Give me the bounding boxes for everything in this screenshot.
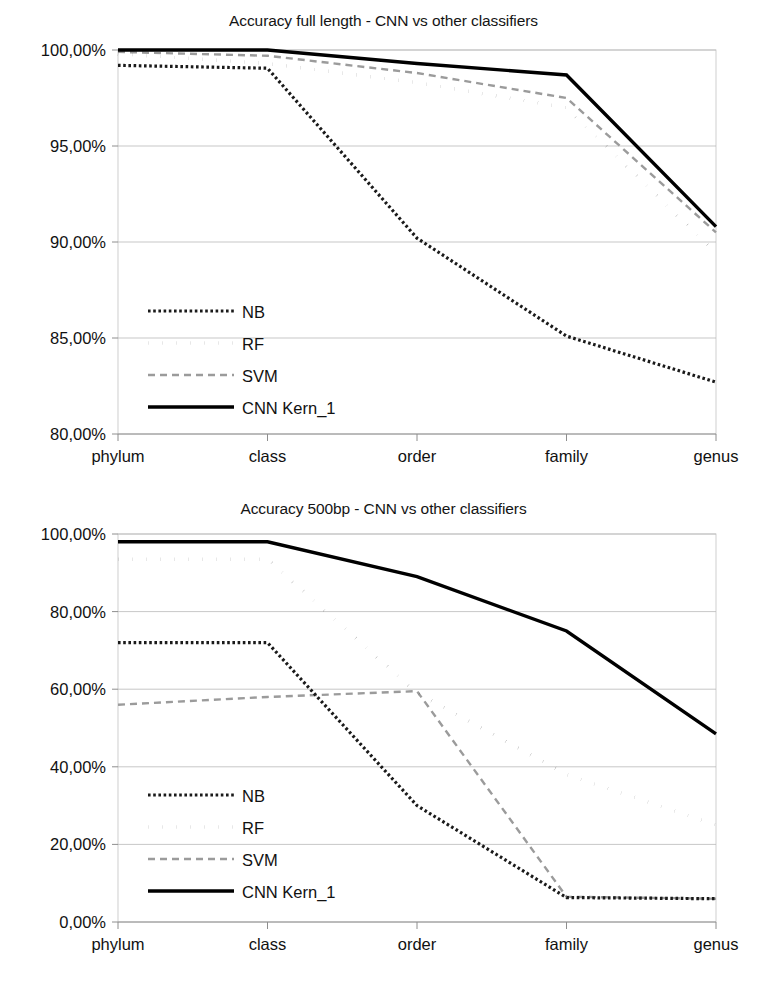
legend-label-rf: RF	[242, 819, 264, 837]
y-tick-label: 80,00%	[50, 603, 106, 621]
figure-container: Accuracy full length - CNN vs other clas…	[0, 0, 767, 991]
legend-label-cnn-kern-1: CNN Kern_1	[242, 883, 336, 902]
x-tick-label: family	[545, 935, 589, 953]
x-tick-label: phylum	[91, 447, 144, 465]
x-tick-label: genus	[694, 935, 739, 953]
chart-accuracy-full-length: Accuracy full length - CNN vs other clas…	[0, 0, 767, 492]
legend-label-rf: RF	[242, 335, 264, 353]
chart-1-svg: 80,00%85,00%90,00%95,00%100,00%phylumcla…	[0, 0, 767, 492]
y-tick-label: 20,00%	[50, 835, 106, 853]
y-tick-label: 60,00%	[50, 680, 106, 698]
chart-1-plot-area: 80,00%85,00%90,00%95,00%100,00%phylumcla…	[0, 0, 767, 492]
y-tick-label: 85,00%	[50, 329, 106, 347]
chart-2-plot-area: 0,00%20,00%40,00%60,00%80,00%100,00%phyl…	[0, 492, 767, 991]
legend-label-nb: NB	[242, 303, 265, 321]
legend-label-nb: NB	[242, 787, 265, 805]
legend-label-cnn-kern-1: CNN Kern_1	[242, 399, 336, 418]
series-line-nb	[118, 643, 716, 899]
series-line-cnn-kern-1	[118, 542, 716, 734]
y-tick-label: 95,00%	[50, 137, 106, 155]
series-line-cnn-kern-1	[118, 50, 716, 227]
x-tick-label: genus	[694, 447, 739, 465]
y-tick-label: 0,00%	[59, 913, 106, 931]
chart-2-svg: 0,00%20,00%40,00%60,00%80,00%100,00%phyl…	[0, 492, 767, 991]
chart-accuracy-500bp: Accuracy 500bp - CNN vs other classifier…	[0, 492, 767, 991]
x-tick-label: class	[249, 935, 287, 953]
x-tick-label: class	[249, 447, 287, 465]
series-line-svm	[118, 52, 716, 232]
legend-label-svm: SVM	[242, 851, 278, 869]
legend-label-svm: SVM	[242, 367, 278, 385]
y-tick-label: 100,00%	[41, 525, 106, 543]
y-tick-label: 100,00%	[41, 41, 106, 59]
y-tick-label: 80,00%	[50, 425, 106, 443]
series-line-rf	[118, 54, 716, 254]
x-tick-label: order	[398, 447, 437, 465]
series-line-nb	[118, 65, 716, 382]
x-tick-label: family	[545, 447, 589, 465]
y-tick-label: 90,00%	[50, 233, 106, 251]
y-tick-label: 40,00%	[50, 758, 106, 776]
x-tick-label: order	[398, 935, 437, 953]
x-tick-label: phylum	[91, 935, 144, 953]
